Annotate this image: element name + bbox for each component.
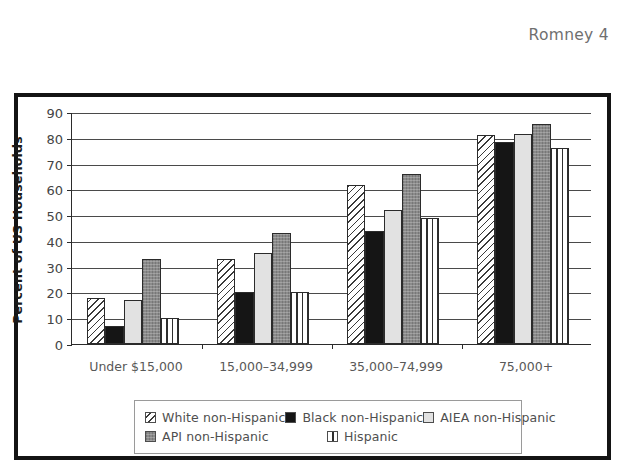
plot-wrapper: 0102030405060708090 Under $15,00015,000–… bbox=[71, 113, 591, 358]
bar bbox=[217, 259, 236, 344]
bar-group bbox=[462, 113, 592, 344]
legend-row: API non-HispanicHispanic bbox=[145, 427, 512, 446]
x-axis-label: Under $15,000 bbox=[71, 359, 201, 374]
chart-legend: White non-HispanicBlack non-HispanicAIEA… bbox=[134, 400, 522, 454]
running-header: Romney 4 bbox=[529, 26, 609, 44]
bar bbox=[477, 135, 496, 344]
bar-group bbox=[72, 113, 202, 344]
legend-item[interactable]: AIEA non-Hispanic bbox=[423, 410, 556, 425]
bar bbox=[347, 185, 366, 344]
x-axis-label: 15,000–34,999 bbox=[201, 359, 331, 374]
legend-label: Black non-Hispanic bbox=[302, 410, 423, 425]
y-axis-tick-label: 80 bbox=[46, 131, 63, 146]
y-axis-tick-label: 60 bbox=[46, 183, 63, 198]
bar bbox=[402, 174, 421, 344]
y-axis-title: Percent of US Households bbox=[10, 115, 32, 345]
bar bbox=[495, 142, 514, 344]
legend-swatch-icon bbox=[285, 412, 296, 423]
legend-item[interactable]: API non-Hispanic bbox=[145, 429, 327, 444]
y-axis-tick-label: 10 bbox=[46, 312, 63, 327]
y-axis-tick-label: 90 bbox=[46, 106, 63, 121]
bar bbox=[421, 218, 440, 344]
x-axis-tick bbox=[202, 344, 203, 349]
y-axis-tick-label: 30 bbox=[46, 260, 63, 275]
y-axis-tick-label: 20 bbox=[46, 286, 63, 301]
legend-label: Hispanic bbox=[344, 429, 398, 444]
y-axis-tick-label: 40 bbox=[46, 234, 63, 249]
bar bbox=[384, 210, 403, 344]
bar-group bbox=[332, 113, 462, 344]
y-axis-tick-label: 70 bbox=[46, 157, 63, 172]
figure-frame: Percent of US Households 010203040506070… bbox=[14, 93, 611, 460]
bar bbox=[254, 253, 273, 345]
legend-label: AIEA non-Hispanic bbox=[440, 410, 556, 425]
bar bbox=[365, 231, 384, 344]
legend-swatch-icon bbox=[327, 431, 338, 442]
legend-label: API non-Hispanic bbox=[162, 429, 269, 444]
legend-swatch-icon bbox=[145, 431, 156, 442]
bar bbox=[105, 326, 124, 344]
legend-row: White non-HispanicBlack non-HispanicAIEA… bbox=[145, 408, 512, 427]
figure-inner: Percent of US Households 010203040506070… bbox=[18, 97, 607, 456]
bar bbox=[532, 124, 551, 344]
bar bbox=[272, 233, 291, 344]
bar-group bbox=[202, 113, 332, 344]
y-axis-tick-label: 50 bbox=[46, 209, 63, 224]
legend-item[interactable]: White non-Hispanic bbox=[145, 410, 285, 425]
bar bbox=[161, 318, 180, 344]
plot-area: 0102030405060708090 bbox=[71, 113, 591, 345]
legend-item[interactable]: Black non-Hispanic bbox=[285, 410, 423, 425]
x-axis-label: 75,000+ bbox=[461, 359, 591, 374]
bar bbox=[124, 300, 143, 344]
legend-item[interactable]: Hispanic bbox=[327, 429, 509, 444]
y-axis-tick bbox=[67, 345, 72, 346]
bar bbox=[235, 292, 254, 344]
x-axis-label: 35,000–74,999 bbox=[331, 359, 461, 374]
legend-label: White non-Hispanic bbox=[162, 410, 285, 425]
bar bbox=[142, 259, 161, 344]
x-axis-tick bbox=[462, 344, 463, 349]
bar bbox=[87, 298, 106, 344]
y-axis-tick-label: 0 bbox=[55, 338, 63, 353]
x-axis-tick bbox=[332, 344, 333, 349]
legend-swatch-icon bbox=[423, 412, 434, 423]
bar bbox=[291, 292, 310, 344]
bar bbox=[514, 134, 533, 344]
bar bbox=[551, 148, 570, 344]
legend-swatch-icon bbox=[145, 412, 156, 423]
